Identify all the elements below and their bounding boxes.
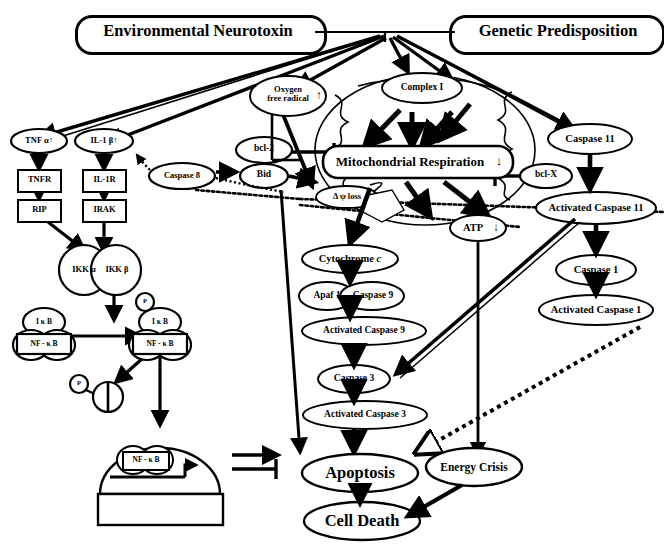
degraded-ikb [70, 375, 123, 412]
ofr-oval [250, 76, 326, 116]
caspase1-to-energy-crisis [418, 327, 640, 452]
caspase8-to-apoptosis [281, 190, 300, 452]
box-connectors [39, 192, 104, 200]
complex-i-oval [382, 73, 462, 103]
outcome-ovals [302, 448, 522, 540]
nucleus-nfkb [117, 446, 173, 474]
receptor-boxes [18, 170, 126, 222]
pathway-graphics [0, 0, 664, 546]
ikb-nfkb-complex-2 [129, 293, 191, 360]
node-environmental-neurotoxin [75, 15, 327, 55]
ikb-nfkb-complex-1 [13, 308, 75, 360]
gene-inhibition-bar [232, 459, 276, 479]
respiration-box [323, 146, 513, 178]
atp-oval [450, 215, 506, 241]
caspase11-to-caspase3 [396, 219, 575, 374]
node-genetic-predisposition [449, 15, 664, 55]
cascade-ovals [299, 245, 427, 429]
pathway-diagram: Environmental Neurotoxin Genetic Predisp… [0, 0, 664, 546]
